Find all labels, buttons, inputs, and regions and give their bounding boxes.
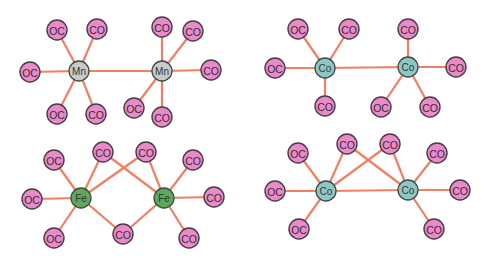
ligand-oc: OC [47, 104, 67, 124]
metal-label: Co [319, 63, 332, 74]
ligand-co: CO [380, 134, 400, 154]
metal-label: Fe [158, 193, 170, 204]
ligand-oc: OC [289, 219, 309, 239]
ligand-co: CO [337, 134, 357, 154]
ligand-co: CO [87, 19, 107, 39]
ligand-label: CO [154, 112, 170, 124]
ligand-co: CO [424, 219, 444, 239]
ligand-label: OC [46, 233, 62, 245]
ligand-label: OC [22, 67, 38, 79]
ligand-oc: OC [265, 58, 285, 78]
ligand-label: CO [429, 148, 445, 160]
bond-line [325, 67, 408, 68]
ligand-oc: OC [44, 228, 64, 248]
ligand-co: CO [398, 19, 418, 39]
ligand-label: CO [95, 147, 111, 159]
ligand-label: OC [126, 103, 142, 115]
ligand-label: CO [448, 62, 464, 74]
ligand-oc: OC [288, 143, 308, 163]
ligand-co: CO [136, 142, 156, 162]
panel-bonds [275, 29, 456, 107]
ligand-co: CO [183, 150, 203, 170]
ligand-co: CO [113, 224, 133, 244]
ligand-co: CO [446, 57, 466, 77]
metal-atom-fe: Fe [154, 188, 174, 208]
ligand-co: CO [86, 104, 106, 124]
ligand-co: CO [450, 180, 470, 200]
ligand-label: CO [317, 101, 333, 113]
panel-atoms: OCCOCOCOOCCOOCCOCoCo [265, 134, 470, 239]
ligand-label: CO [88, 109, 104, 121]
metal-atom-co: Co [316, 181, 336, 201]
ligand-label: CO [89, 24, 105, 36]
metal-atom-mn: Mn [152, 61, 172, 81]
ligand-oc: OC [22, 189, 42, 209]
ligand-label: OC [267, 186, 283, 198]
metal-label: Co [402, 62, 415, 73]
ligand-co: CO [339, 19, 359, 39]
metal-atom-co: Co [398, 180, 418, 200]
bond-line [326, 190, 408, 191]
ligand-label: OC [291, 224, 307, 236]
ligand-label: OC [24, 194, 40, 206]
ligand-co: CO [152, 17, 172, 37]
ligand-oc: OC [124, 98, 144, 118]
ligand-label: CO [154, 22, 170, 34]
ligand-label: OC [373, 102, 389, 114]
ligand-oc: OC [20, 62, 40, 82]
ligand-co: CO [179, 228, 199, 248]
ligand-label: CO [185, 26, 201, 38]
ligand-label: CO [181, 233, 197, 245]
ligand-label: CO [206, 192, 222, 204]
ligand-label: OC [290, 148, 306, 160]
ligand-co: CO [420, 97, 440, 117]
metal-label: Co [402, 185, 415, 196]
ligand-co: CO [152, 107, 172, 127]
ligand-co: CO [93, 142, 113, 162]
panel-atoms: OCCOCOCOOCCOOCCOCOFeFe [22, 142, 224, 248]
ligand-label: CO [185, 155, 201, 167]
ligand-label: CO [341, 24, 357, 36]
metal-label: Mn [155, 66, 169, 77]
ligand-label: CO [382, 139, 398, 151]
ligand-label: CO [138, 147, 154, 159]
ligand-label: CO [400, 24, 416, 36]
ligand-co: CO [427, 143, 447, 163]
metal-atom-fe: Fe [71, 188, 91, 208]
ligand-label: CO [203, 65, 219, 77]
metal-label: Co [320, 186, 333, 197]
ligand-oc: OC [288, 19, 308, 39]
ligand-label: CO [426, 224, 442, 236]
ligand-label: CO [452, 185, 468, 197]
metal-atom-mn: Mn [69, 61, 89, 81]
metal-atom-co: Co [398, 57, 418, 77]
ligand-label: OC [49, 109, 65, 121]
ligand-co: CO [204, 187, 224, 207]
ligand-oc: OC [44, 150, 64, 170]
metal-carbonyl-structures-diagram: OCCOOCOCCOCOCOCOOCCOMnMnOCCOOCCOCOCOOCCO… [0, 0, 486, 258]
ligand-co: CO [315, 96, 335, 116]
metal-label: Mn [72, 66, 86, 77]
ligand-label: CO [422, 102, 438, 114]
ligand-label: OC [267, 63, 283, 75]
ligand-co: CO [183, 21, 203, 41]
ligand-oc: OC [371, 97, 391, 117]
ligand-label: OC [46, 155, 62, 167]
ligand-oc: OC [47, 20, 67, 40]
ligand-label: OC [49, 25, 65, 37]
bonds-layer [30, 27, 460, 238]
metal-label: Fe [75, 193, 87, 204]
metal-atom-co: Co [315, 58, 335, 78]
ligand-label: CO [339, 139, 355, 151]
ligand-label: OC [290, 24, 306, 36]
ligand-oc: OC [265, 181, 285, 201]
ligand-label: CO [115, 229, 131, 241]
ligand-co: CO [201, 60, 221, 80]
